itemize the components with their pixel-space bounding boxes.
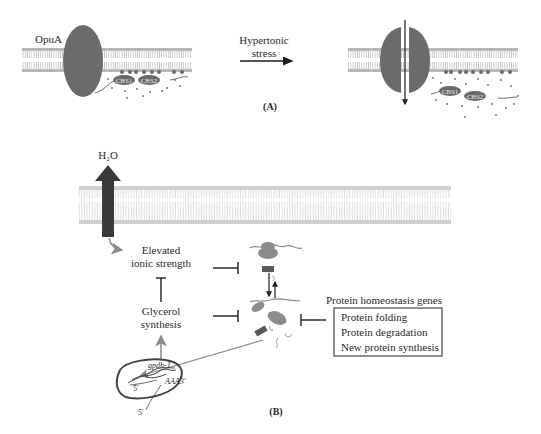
gene-label: gpdh-1	[148, 361, 171, 370]
arrow-label-line2: stress	[252, 47, 276, 59]
water-label: H₂O	[98, 149, 118, 161]
panel-a-label: (A)	[263, 101, 277, 113]
polya-label: AAA3'	[164, 377, 186, 386]
glycerol-label-line2: synthesis	[141, 318, 181, 330]
membrane-right	[348, 48, 518, 72]
ionic-label-line1: Elevated	[142, 244, 181, 256]
ionic-label-line2: ionic strength	[131, 257, 192, 269]
cbs1-label-released: CBS1	[442, 88, 459, 96]
five-prime-label-b: 5'	[138, 408, 144, 417]
opua-open-left	[380, 27, 401, 93]
panel-a: OpuA CBS1 CBS2 Hypertonic stress (A)	[22, 20, 519, 118]
homeostasis-title: Protein homeostasis genes	[326, 294, 442, 306]
ribosome-complex	[250, 242, 302, 281]
opua-transporter	[63, 25, 103, 97]
inhibition-glycerol-protein	[213, 310, 238, 322]
cbs1-label: CBS1	[116, 77, 133, 85]
inhibition-homeostasis-protein	[301, 314, 326, 326]
arrow-label-line1: Hypertonic	[239, 34, 289, 46]
homeostasis-item-folding: Protein folding	[341, 311, 408, 323]
signal-to-nucleus-arrow	[140, 340, 263, 376]
unfolded-proteins	[250, 299, 300, 348]
cbs2-label-released: CBS2	[467, 93, 484, 101]
five-prime-label-a: 5'	[133, 384, 139, 393]
lipid-bound-ions	[120, 70, 184, 74]
cbs2-label: CBS2	[141, 77, 158, 85]
cell-membrane	[79, 186, 451, 224]
glycerol-label-line1: Glycerol	[142, 305, 180, 317]
panel-b-label: (B)	[269, 406, 282, 418]
homeostasis-item-synthesis: New protein synthesis	[341, 341, 439, 353]
inhibition-ionic-protein	[213, 262, 238, 274]
membrane-left	[22, 48, 192, 72]
inhibition-glycerol-ionic	[156, 278, 166, 302]
figure-canvas: OpuA CBS1 CBS2 Hypertonic stress (A)	[0, 0, 541, 434]
panel-b: H₂O Elevated ionic strength Glycerol syn…	[79, 149, 451, 418]
opua-label: OpuA	[35, 33, 62, 45]
homeostasis-item-degradation: Protein degradation	[341, 326, 428, 338]
opua-open-right	[409, 27, 430, 93]
